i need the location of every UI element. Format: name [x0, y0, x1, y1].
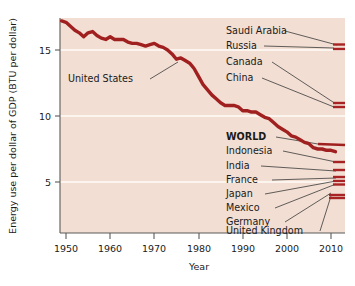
energy-intensity-line-chart: 15 10 5 1950 1960 1970 1980 1990 2000 20… — [0, 0, 355, 286]
y-tick-15: 15 — [39, 45, 51, 56]
x-axis-ticks: 1950 1960 1970 1980 1990 2000 2010 — [54, 233, 343, 254]
x-tick-1950: 1950 — [54, 243, 78, 254]
label-mexico: Mexico — [226, 202, 260, 213]
label-russia: Russia — [226, 40, 257, 51]
x-tick-1990: 1990 — [231, 243, 255, 254]
x-tick-2000: 2000 — [275, 243, 299, 254]
x-tick-2010: 2010 — [319, 243, 343, 254]
label-france: France — [226, 174, 258, 185]
label-world: WORLD — [226, 131, 266, 142]
label-united-states: United States — [68, 73, 133, 84]
y-axis-ticks: 15 10 5 — [39, 45, 60, 188]
x-axis-title: Year — [188, 261, 209, 272]
label-indonesia: Indonesia — [226, 145, 272, 156]
label-canada: Canada — [226, 56, 263, 67]
y-tick-10: 10 — [39, 111, 51, 122]
series-line-world — [318, 144, 345, 145]
y-axis-title: Energy use per dollar of GDP (BTU per do… — [7, 18, 18, 234]
y-tick-5: 5 — [45, 177, 51, 188]
chart-figure: 15 10 5 1950 1960 1970 1980 1990 2000 20… — [0, 0, 355, 286]
x-tick-1970: 1970 — [142, 243, 166, 254]
x-tick-1980: 1980 — [187, 243, 211, 254]
label-united-kingdom: United Kingdom — [226, 225, 303, 236]
label-india: India — [226, 160, 250, 171]
label-japan: Japan — [225, 188, 253, 199]
label-china: China — [226, 72, 253, 83]
label-saudi-arabia: Saudi Arabia — [226, 25, 287, 36]
x-tick-1960: 1960 — [98, 243, 122, 254]
